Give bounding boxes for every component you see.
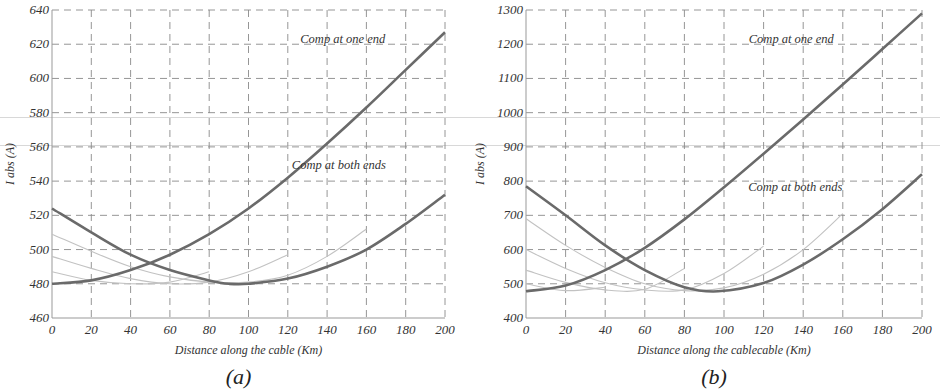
y-tick-label: 500 [30, 242, 50, 257]
x-tick-label: 20 [559, 322, 573, 337]
x-tick-label: 80 [678, 322, 692, 337]
x-tick-label: 40 [124, 322, 138, 337]
y-tick-label: 620 [30, 36, 50, 51]
grid-lines [526, 10, 922, 318]
x-tick-label: 100 [714, 322, 734, 337]
x-tick-label: 120 [754, 322, 774, 337]
y-tick-label: 480 [30, 276, 50, 291]
x-tick-label: 20 [85, 322, 99, 337]
chart-panel-a: 4604805005205405605806006206400204060801… [0, 0, 470, 390]
y-axis-title: I abs (A) [473, 143, 487, 186]
figure-caption: (b) [701, 364, 727, 389]
x-tick-label: 0 [49, 322, 56, 337]
y-tick-label: 600 [504, 242, 524, 257]
y-tick-label: 640 [30, 2, 50, 17]
figure-caption: (a) [226, 364, 252, 389]
chart-a-svg: 4604805005205405605806006206400204060801… [0, 0, 470, 390]
y-tick-label: 560 [30, 139, 50, 154]
series-annotation: Comp at one end [749, 32, 835, 46]
y-tick-label: 540 [30, 173, 50, 188]
y-tick-label: 800 [504, 173, 524, 188]
y-tick-label: 1200 [497, 36, 524, 51]
x-tick-label: 180 [873, 322, 893, 337]
x-tick-label: 80 [203, 322, 217, 337]
y-tick-label: 460 [30, 310, 50, 325]
y-tick-label: 900 [504, 139, 524, 154]
x-tick-label: 160 [833, 322, 853, 337]
x-tick-label: 200 [435, 322, 455, 337]
series-annotation: Comp at both ends [748, 180, 842, 194]
x-tick-label: 160 [357, 322, 377, 337]
y-tick-label: 1300 [497, 2, 524, 17]
x-tick-label: 60 [638, 322, 652, 337]
x-tick-label: 180 [396, 322, 416, 337]
x-tick-label: 140 [793, 322, 813, 337]
x-tick-label: 140 [317, 322, 337, 337]
y-tick-label: 1100 [498, 70, 524, 85]
x-axis-title: Distance along the cable (Km) [174, 343, 322, 357]
y-axis-title: I abs (A) [3, 143, 17, 186]
x-tick-label: 60 [163, 322, 177, 337]
y-tick-label: 520 [30, 207, 50, 222]
x-tick-label: 120 [278, 322, 298, 337]
x-tick-label: 100 [239, 322, 259, 337]
chart-b-svg: 4005006007008009001000110012001300020406… [470, 0, 940, 390]
x-tick-label: 40 [599, 322, 613, 337]
chart-panel-b: 4005006007008009001000110012001300020406… [470, 0, 940, 390]
y-tick-label: 400 [504, 310, 524, 325]
y-tick-label: 500 [504, 276, 524, 291]
y-tick-label: 700 [504, 207, 524, 222]
x-tick-label: 200 [912, 322, 932, 337]
series-annotation: Comp at one end [300, 32, 386, 46]
y-tick-label: 580 [30, 105, 50, 120]
y-tick-label: 1000 [497, 105, 524, 120]
x-tick-label: 0 [523, 322, 530, 337]
y-tick-label: 600 [30, 70, 50, 85]
x-axis-title: Distance along the cablecable (Km) [636, 343, 810, 357]
series-annotation: Comp at both ends [292, 158, 386, 172]
